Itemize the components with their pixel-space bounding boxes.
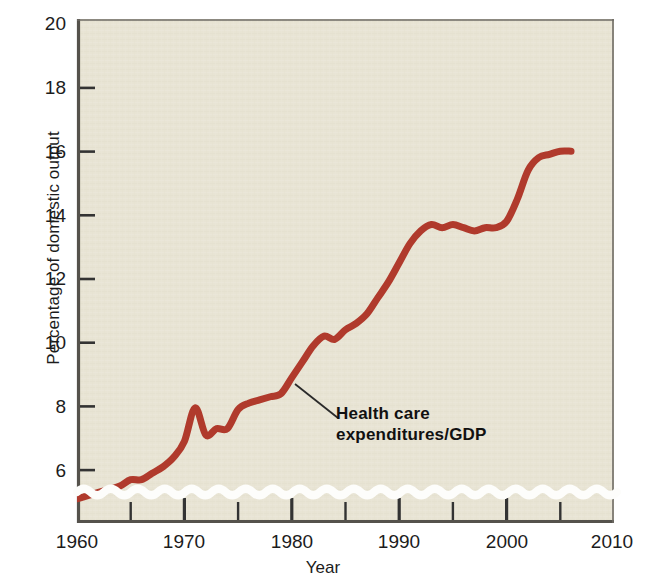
health-care-expenditures-chart: 20 18 16 14 12 10 8 6 1960 1970 1980 199…: [0, 0, 646, 586]
x-tick-label-2000: 2000: [467, 532, 547, 551]
x-axis-title: Year: [0, 558, 646, 578]
series-annotation-callout: Health care expenditures/GDP: [336, 404, 487, 445]
y-tick-label-20: 20: [10, 14, 66, 33]
x-tick-label-1980: 1980: [252, 532, 332, 551]
y-tick-label-18: 18: [10, 78, 66, 97]
plot-area-background: [77, 19, 614, 523]
annotation-line-2: expenditures/GDP: [336, 425, 487, 446]
x-tick-label-1970: 1970: [144, 532, 224, 551]
y-tick-label-8: 8: [10, 397, 66, 416]
y-axis-title: Percentage of domestic output: [44, 98, 64, 398]
annotation-line-1: Health care: [336, 404, 487, 425]
x-tick-label-1960: 1960: [37, 532, 117, 551]
x-tick-label-1990: 1990: [359, 532, 439, 551]
chart-canvas: [0, 0, 646, 586]
x-tick-label-2010: 2010: [572, 532, 646, 551]
y-tick-label-6: 6: [10, 461, 66, 480]
y-axis-break-wave: [77, 489, 617, 496]
